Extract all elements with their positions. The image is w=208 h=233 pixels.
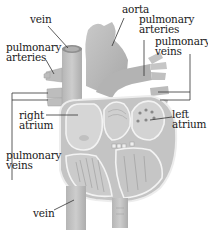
- heart-diagram: vein aorta pulmonary arteries pulmonary …: [0, 0, 208, 233]
- label-vein-bottom: vein: [33, 208, 54, 218]
- label-line-2: veins: [155, 46, 208, 56]
- right-atrium-chamber: [66, 104, 102, 150]
- label-pulmonary-arteries-right: pulmonary arteries: [139, 14, 194, 34]
- left-atrium-chamber: [132, 101, 164, 140]
- label-right-atrium: right atrium: [19, 110, 53, 130]
- label-pulmonary-arteries-left: pulmonary arteries: [6, 42, 61, 62]
- label-pulmonary-veins-right: pulmonary veins: [155, 36, 208, 56]
- descending-aorta: [112, 198, 128, 228]
- label-vein-top: vein: [30, 14, 51, 24]
- label-left-atrium: left atrium: [172, 109, 206, 129]
- label-line-2: atrium: [172, 119, 206, 129]
- label-line-2: arteries: [6, 52, 61, 62]
- label-line-2: atrium: [19, 120, 53, 130]
- inferior-vein: [66, 186, 86, 230]
- label-line-2: arteries: [139, 24, 194, 34]
- label-pulmonary-veins-left: pulmonary veins: [6, 150, 61, 170]
- label-line-2: veins: [6, 160, 61, 170]
